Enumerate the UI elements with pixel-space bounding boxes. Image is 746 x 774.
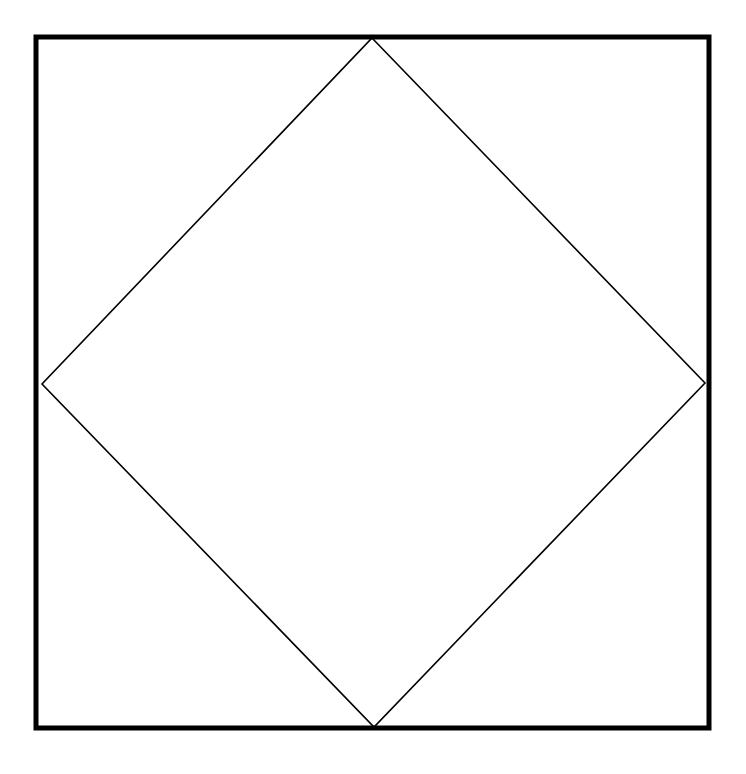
outer-square [36,37,709,728]
diagram-canvas [0,0,746,774]
inscribed-diamond [42,38,705,727]
